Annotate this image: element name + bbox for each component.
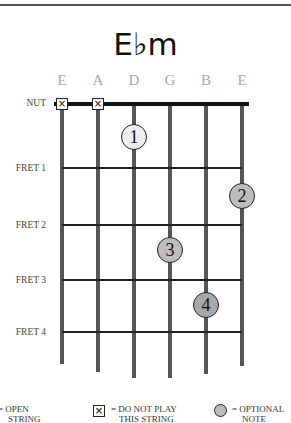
legend-mute-line2: THIS STRING — [111, 414, 177, 423]
fret-1 — [62, 167, 242, 169]
finger-dot-1: 1 — [121, 124, 147, 150]
string-5 — [204, 104, 208, 374]
legend-do-not-play: = DO NOT PLAY THIS STRING — [111, 404, 177, 423]
legend-open-string: = OPEN STRING — [0, 404, 41, 423]
string-name-2: A — [88, 72, 108, 89]
legend-optional-line1: = OPTIONAL — [232, 404, 284, 414]
legend-mute-line1: = DO NOT PLAY — [111, 404, 177, 414]
string-name-4: G — [160, 72, 180, 89]
chord-title: E♭m — [0, 26, 291, 62]
finger-dot-4: 4 — [193, 292, 219, 318]
string-name-6: E — [232, 72, 252, 89]
legend-optional-note: = OPTIONAL NOTE — [232, 404, 284, 423]
fret-4 — [62, 331, 242, 333]
fret-1-label: FRET 1 — [0, 163, 46, 173]
string-1 — [60, 104, 64, 364]
string-name-5: B — [196, 72, 216, 89]
nut-label: NUT — [0, 98, 46, 108]
legend-mute-icon: × — [93, 405, 105, 417]
fret-3-label: FRET 3 — [0, 275, 46, 285]
finger-dot-3: 3 — [157, 237, 183, 263]
fret-2-label: FRET 2 — [0, 220, 46, 230]
mute-marker-string-1: × — [56, 98, 68, 110]
legend-open-line2: STRING — [0, 414, 41, 423]
finger-dot-2: 2 — [229, 183, 255, 209]
fret-4-label: FRET 4 — [0, 327, 46, 337]
legend-open-line1: = OPEN — [0, 404, 41, 414]
string-name-1: E — [52, 72, 72, 89]
top-divider — [0, 4, 291, 6]
mute-marker-string-2: × — [92, 98, 104, 110]
fret-3 — [62, 279, 242, 281]
nut — [54, 102, 249, 106]
fret-2 — [62, 224, 242, 226]
legend-optional-line2: NOTE — [232, 414, 284, 423]
legend-optional-circle-icon — [214, 404, 227, 417]
string-6 — [240, 104, 244, 366]
string-name-3: D — [124, 72, 144, 89]
